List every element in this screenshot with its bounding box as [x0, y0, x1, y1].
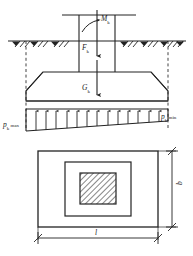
dimension-label-l: l	[95, 229, 97, 237]
pressure-arrows	[36, 111, 159, 130]
ground-tick-triangles	[12, 42, 59, 47]
figure-root: Mk Fk Gk pk max pk min b l	[0, 0, 193, 256]
section-view	[8, 10, 186, 131]
plan-view	[34, 147, 178, 244]
pressure-diagram	[26, 109, 168, 131]
label-pressure-min: pk min	[161, 113, 176, 123]
dimension-label-b: b	[176, 181, 184, 185]
label-pressure-max: pk max	[3, 121, 19, 131]
footing-haunch-right	[151, 72, 168, 91]
column-section	[80, 173, 116, 204]
label-axial-force: Fk	[82, 44, 89, 54]
dimension-l	[34, 227, 162, 244]
diagram-canvas	[0, 0, 193, 256]
label-moment: Mk	[101, 15, 110, 25]
dimension-b	[158, 147, 178, 231]
footing-haunch-left	[26, 72, 43, 91]
label-self-weight: Gk	[82, 84, 90, 94]
